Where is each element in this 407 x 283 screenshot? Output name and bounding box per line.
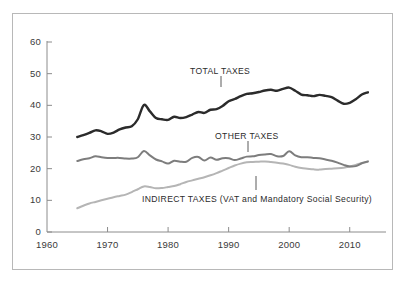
series-line [77,88,368,137]
x-tick-label: 1960 [27,239,67,250]
data-series-group [77,88,368,209]
x-tick-label: 1990 [209,239,249,250]
chart-figure: 0102030405060 196019701980199020002010 T… [0,0,407,283]
series-annotation-label: TOTAL TAXES [190,66,250,76]
y-tick-label: 0 [21,226,41,237]
series-annotation-label: INDIRECT TAXES (VAT and Mandatory Social… [142,194,372,204]
x-tick-label: 2000 [269,239,309,250]
x-tick-label: 2010 [330,239,370,250]
y-tick-label: 30 [21,131,41,142]
series-line [77,151,368,167]
y-tick-label: 10 [21,194,41,205]
x-tick-label: 1980 [148,239,188,250]
series-annotation-label: OTHER TAXES [215,131,279,141]
y-tick-label: 40 [21,99,41,110]
y-tick-label: 20 [21,163,41,174]
y-tick-label: 60 [21,36,41,47]
y-tick-label: 50 [21,68,41,79]
x-tick-label: 1970 [88,239,128,250]
